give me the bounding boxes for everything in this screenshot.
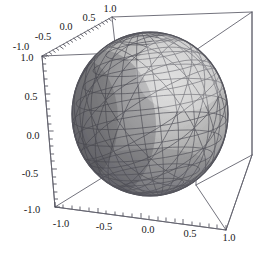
z-tick-label: 1.0 <box>20 52 33 63</box>
plot-figure: -1.0 -0.5 0.0 0.5 1.0 -1.0 -0.5 0.0 0.5 … <box>0 0 265 253</box>
y-tick-label: -1.0 <box>13 41 30 52</box>
x-tick-label: -1.0 <box>53 218 70 229</box>
y-tick-label: -0.5 <box>35 31 52 42</box>
x-tick-label: 0.5 <box>183 228 196 239</box>
z-tick-label: 0.5 <box>24 91 37 102</box>
z-tick-label: -1.0 <box>24 204 41 215</box>
y-tick-label: 0.5 <box>82 12 95 23</box>
3d-sphere-plot: -1.0 -0.5 0.0 0.5 1.0 -1.0 -0.5 0.0 0.5 … <box>0 0 265 253</box>
z-tick-label: 0.0 <box>26 130 39 141</box>
x-tick-label: 1.0 <box>222 232 235 243</box>
z-tick-label: -0.5 <box>22 168 39 179</box>
x-tick-label: 0.0 <box>141 224 154 235</box>
x-tick-label: -0.5 <box>96 221 113 232</box>
y-tick-label: 0.0 <box>59 21 72 32</box>
y-tick-label: 1.0 <box>103 3 116 14</box>
